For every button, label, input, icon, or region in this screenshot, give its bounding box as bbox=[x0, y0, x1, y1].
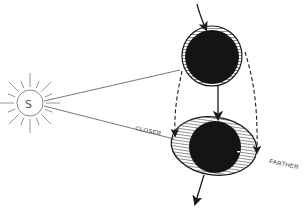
sun-ray bbox=[45, 109, 52, 112]
upper-body-core bbox=[185, 30, 239, 84]
lower-body-marker bbox=[237, 151, 240, 152]
sun-ray bbox=[45, 94, 52, 97]
sun-ray bbox=[21, 81, 24, 88]
closer-dashed-arrow bbox=[175, 71, 182, 133]
sun-ray bbox=[8, 109, 15, 112]
upper-body bbox=[182, 26, 242, 86]
incoming-path-arrow bbox=[197, 4, 205, 27]
tidal-diagram: S CLOSER FARTHER bbox=[0, 0, 304, 212]
sun-ray bbox=[36, 118, 39, 125]
farther-label: FARTHER bbox=[269, 158, 300, 170]
sun-ray bbox=[21, 118, 24, 125]
sun-ray bbox=[36, 81, 39, 88]
lower-body-core bbox=[189, 121, 241, 173]
sun-label: S bbox=[25, 98, 32, 111]
sun-ray bbox=[9, 114, 19, 124]
sun-line-upper bbox=[44, 70, 180, 101]
sun-ray bbox=[8, 94, 15, 97]
sun-ray bbox=[41, 114, 51, 124]
lower-body bbox=[167, 111, 260, 180]
sun: S bbox=[0, 73, 60, 133]
outgoing-path-arrow bbox=[196, 175, 204, 201]
closer-label: CLOSER bbox=[135, 125, 163, 136]
sun-ray bbox=[9, 82, 19, 92]
sun-ray bbox=[41, 82, 51, 92]
